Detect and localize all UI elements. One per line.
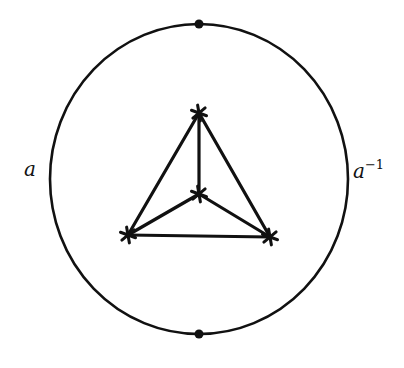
diagram-canvas: a a−1: [0, 0, 404, 368]
vertex-center-star-icon: [191, 186, 206, 202]
top-point: [195, 20, 204, 29]
label-a-inverse-base: a: [353, 159, 365, 183]
label-a: a: [24, 157, 36, 181]
bottom-point: [195, 330, 204, 339]
graph-edges: [128, 113, 270, 237]
graph-diagram: a a−1: [0, 0, 404, 368]
edge-top-bottom-left: [128, 113, 199, 235]
edge-top-bottom-right: [199, 113, 270, 237]
edge-bottom-left-bottom-right: [128, 235, 270, 237]
label-a-inverse-exponent: −1: [365, 157, 384, 172]
vertex-top-star-icon: [191, 105, 206, 121]
label-a-inverse: a−1: [353, 157, 384, 183]
